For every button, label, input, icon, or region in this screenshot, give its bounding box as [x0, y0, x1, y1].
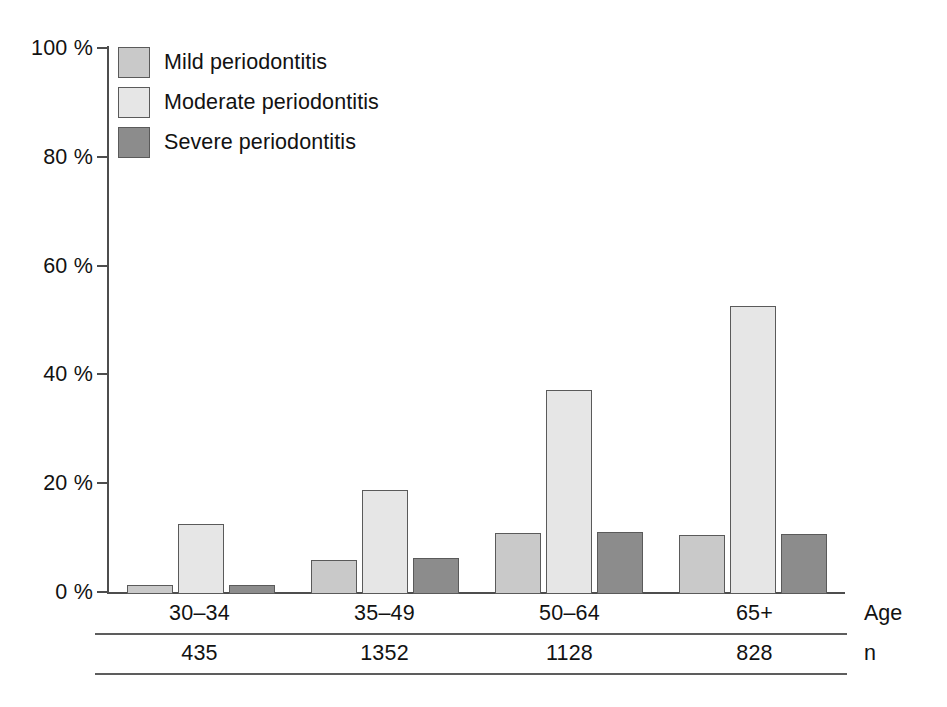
bar-severe-35-49 — [413, 558, 459, 594]
bar-mild-65+ — [679, 535, 725, 594]
table-cell-age-0: 30–34 — [107, 594, 292, 633]
table-cell-age-2: 50–64 — [477, 594, 662, 633]
table-row-n: 435 1352 1128 828 — [107, 634, 847, 673]
legend-swatch-severe-icon — [118, 127, 150, 158]
bar-severe-50-64 — [597, 532, 643, 594]
bar-mild-50-64 — [495, 533, 541, 594]
legend-item-mild: Mild periodontitis — [118, 44, 379, 80]
bar-moderate-30-34 — [178, 524, 224, 594]
bar-mild-30-34 — [127, 585, 173, 594]
table-cell-n-0: 435 — [107, 634, 292, 673]
bar-mild-35-49 — [311, 560, 357, 594]
table-cell-n-2: 1128 — [477, 634, 662, 673]
legend-label-mild: Mild periodontitis — [164, 50, 327, 75]
row-title-age: Age — [864, 594, 902, 633]
table-cell-age-3: 65+ — [662, 594, 847, 633]
bar-moderate-35-49 — [362, 490, 408, 594]
table-row-age: 30–34 35–49 50–64 65+ — [107, 594, 847, 633]
table-cell-n-1: 1352 — [292, 634, 477, 673]
table-cell-age-1: 35–49 — [292, 594, 477, 633]
row-title-n: n — [864, 634, 876, 673]
legend-item-moderate: Moderate periodontitis — [118, 84, 379, 120]
category-table: 30–34 35–49 50–64 65+ 435 1352 1128 828 — [0, 594, 947, 707]
bar-severe-65+ — [781, 534, 827, 594]
legend-item-severe: Severe periodontitis — [118, 124, 379, 160]
table-cell-n-3: 828 — [662, 634, 847, 673]
bar-moderate-65+ — [730, 306, 776, 594]
bar-moderate-50-64 — [546, 390, 592, 594]
legend-label-severe: Severe periodontitis — [164, 130, 356, 155]
bar-severe-30-34 — [229, 585, 275, 594]
chart-legend: Mild periodontitis Moderate periodontiti… — [118, 44, 379, 164]
chart-page: 0 %20 %40 %60 %80 %100 % Mild periodonti… — [0, 0, 947, 707]
table-rule-bottom — [95, 673, 847, 675]
legend-swatch-moderate-icon — [118, 87, 150, 118]
legend-label-moderate: Moderate periodontitis — [164, 90, 379, 115]
legend-swatch-mild-icon — [118, 47, 150, 78]
